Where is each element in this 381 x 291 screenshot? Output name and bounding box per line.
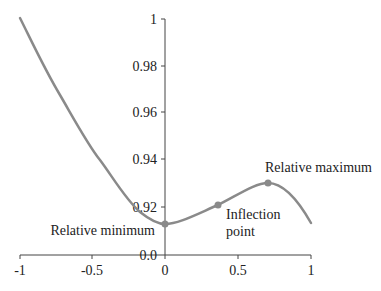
relative-minimum-point: [162, 221, 169, 228]
relative-minimum-label: Relative minimum: [50, 223, 155, 238]
relative-maximum-label: Relative maximum: [265, 160, 372, 175]
x-tick-label: 0: [162, 263, 169, 278]
y-tick-label: 0.94: [133, 152, 158, 167]
inflection-point: [215, 202, 222, 209]
x-tick-label: -1: [14, 263, 26, 278]
y-axis: [161, 19, 165, 255]
x-tick-label: -0.5: [81, 263, 103, 278]
x-tick-labels: -1 -0.5 0 0.5 1: [14, 263, 314, 278]
x-tick-label: 1: [308, 263, 315, 278]
x-tick-label: 0.5: [229, 263, 247, 278]
relative-maximum-point: [265, 180, 272, 187]
inflection-label-line1: Inflection: [226, 207, 280, 222]
y-axis-break-label: 0.0: [140, 248, 158, 263]
y-tick-label: 0.96: [133, 105, 158, 120]
inflection-label-line2: point: [226, 224, 255, 239]
x-axis: [20, 255, 311, 259]
y-tick-label: 1: [150, 12, 157, 27]
y-tick-label: 0.98: [133, 59, 158, 74]
chart: -1 -0.5 0 0.5 1 1 0.98 0.96 0.94 0.92 0.…: [0, 0, 381, 291]
